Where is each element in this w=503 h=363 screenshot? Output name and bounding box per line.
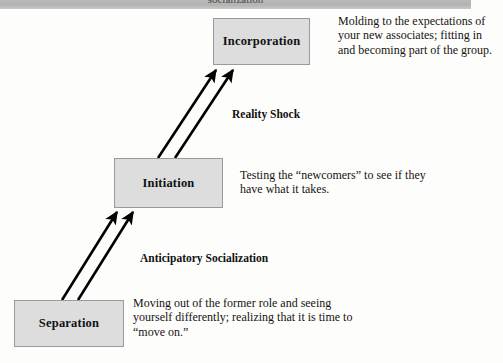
stage-description-initiation: Testing the “newcomers” to see if they h… [240, 168, 440, 197]
stage-box-separation[interactable]: Separation [14, 300, 124, 347]
arrow-initiation-to-incorporation-a [158, 70, 216, 158]
stage-description-separation: Moving out of the former role and seeing… [133, 296, 355, 339]
stage-description-incorporation: Molding to the expectations of your new … [338, 14, 502, 57]
stage-box-initiation[interactable]: Initiation [114, 158, 223, 208]
stage-box-incorporation[interactable]: Incorporation [213, 18, 310, 65]
transition-label-anticipatory-socialization: Anticipatory Socialization [140, 252, 268, 264]
stage-label-separation: Separation [39, 316, 99, 331]
diagram-canvas: socialization Incorporation Initiation S… [0, 0, 503, 363]
arrow-separation-to-initiation-b [78, 212, 133, 300]
stage-label-initiation: Initiation [142, 176, 194, 191]
arrow-initiation-to-incorporation-b [175, 70, 233, 158]
stage-label-incorporation: Incorporation [223, 34, 301, 49]
transition-label-reality-shock: Reality Shock [232, 108, 300, 120]
arrow-separation-to-initiation-a [62, 212, 117, 300]
